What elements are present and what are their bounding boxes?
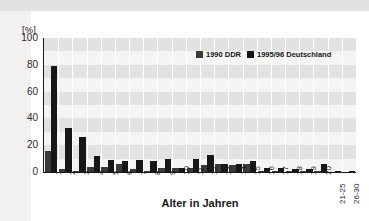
x-tick-cell: 14 xyxy=(228,174,242,218)
y-axis-line xyxy=(43,38,44,173)
x-tick-cell: 16 xyxy=(257,174,271,218)
bar-group xyxy=(172,38,186,172)
x-tick-cell: 7 xyxy=(129,174,143,218)
y-axis-tick-80: 80 xyxy=(12,60,38,70)
bar-group xyxy=(101,38,115,172)
chart-page: [%] 100806040200 12345678910111213141516… xyxy=(0,0,369,221)
x-tick-cell: 4 xyxy=(87,174,101,218)
x-tick-cell: 8 xyxy=(143,174,157,218)
y-axis-tick-100: 100 xyxy=(12,33,38,43)
y-axis-tick-0: 0 xyxy=(12,167,38,177)
x-tick-cell: 10 xyxy=(172,174,186,218)
x-tick-cell: 5 xyxy=(101,174,115,218)
bar-group xyxy=(129,38,143,172)
x-tick-cell: 6 xyxy=(115,174,129,218)
x-tick-cell: 2 xyxy=(58,174,72,218)
x-tick-cell: 19 xyxy=(299,174,313,218)
x-tick-cell: 11 xyxy=(186,174,200,218)
x-tick-cell: 1 xyxy=(44,174,58,218)
x-axis-title: Alter in Jahren xyxy=(44,197,356,209)
bar xyxy=(65,128,71,172)
bar-group xyxy=(115,38,129,172)
chart-legend: 1990 DDR1995/96 Deutschland xyxy=(196,50,331,59)
x-tick-cell: 15 xyxy=(243,174,257,218)
bar xyxy=(51,66,57,172)
y-axis-tick-20: 20 xyxy=(12,140,38,150)
bar-group xyxy=(72,38,86,172)
legend-swatch-icon xyxy=(247,51,254,58)
x-tick-cell: 3 xyxy=(72,174,86,218)
legend-item: 1995/96 Deutschland xyxy=(247,50,331,59)
x-tick-cell: 12 xyxy=(200,174,214,218)
bar-group xyxy=(158,38,172,172)
legend-label: 1990 DDR xyxy=(206,50,241,59)
x-tick-cell: 9 xyxy=(158,174,172,218)
bar-group xyxy=(58,38,72,172)
x-tick-cell: 26-30 xyxy=(342,174,356,218)
bar-group xyxy=(342,38,356,172)
x-tick-cell: 17 xyxy=(271,174,285,218)
scan-artifact-top xyxy=(0,0,369,11)
x-tick-cell: 18 xyxy=(285,174,299,218)
bar-group xyxy=(143,38,157,172)
y-axis-tick-60: 60 xyxy=(12,87,38,97)
bar xyxy=(79,137,85,172)
legend-item: 1990 DDR xyxy=(196,50,241,59)
x-tick-cell: 13 xyxy=(214,174,228,218)
y-axis-tick-40: 40 xyxy=(12,113,38,123)
x-tick-cell: 21-25 xyxy=(328,174,342,218)
legend-swatch-icon xyxy=(196,51,203,58)
bar-group xyxy=(44,38,58,172)
x-axis-tick-labels: 123456789101112131415161718192021-2526-3… xyxy=(44,174,356,218)
bar-group xyxy=(87,38,101,172)
x-tick-cell: 20 xyxy=(314,174,328,218)
legend-label: 1995/96 Deutschland xyxy=(257,50,331,59)
